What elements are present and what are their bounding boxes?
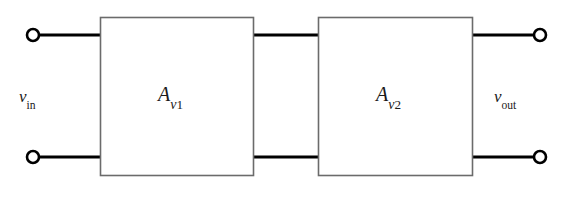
input-voltage-symbol: v (19, 87, 27, 106)
second-stage-gain-index: 2 (394, 97, 401, 112)
output-voltage-subscript: out (502, 99, 517, 112)
output-voltage-label: vout (494, 88, 516, 109)
first-stage-gain-label: Av1 (158, 84, 183, 109)
output-voltage-symbol: v (494, 87, 502, 106)
first-stage-gain-index: 1 (176, 97, 183, 112)
first-stage-gain-symbol: A (158, 83, 170, 105)
terminal-input-bottom (27, 151, 39, 163)
terminal-input-top (27, 29, 39, 41)
terminal-output-bottom (534, 151, 546, 163)
circuit-diagram: vin vout Av1 Av2 (0, 0, 569, 200)
second-stage-gain-symbol: A (376, 83, 388, 105)
input-voltage-label: vin (19, 88, 36, 109)
terminal-output-top (534, 29, 546, 41)
input-voltage-subscript: in (27, 99, 36, 112)
circuit-schematic-canvas (0, 0, 569, 200)
second-stage-gain-label: Av2 (376, 84, 401, 109)
